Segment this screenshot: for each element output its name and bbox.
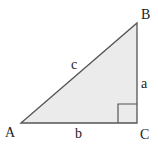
- vertex-label-b: B: [141, 7, 150, 22]
- vertex-label-a: A: [5, 125, 16, 140]
- side-label-b: b: [75, 126, 82, 141]
- side-label-c: c: [71, 57, 77, 72]
- right-triangle: [21, 23, 137, 123]
- vertex-label-c: C: [140, 127, 149, 142]
- side-label-a: a: [141, 76, 148, 91]
- triangle-diagram: A B C a b c: [0, 0, 158, 150]
